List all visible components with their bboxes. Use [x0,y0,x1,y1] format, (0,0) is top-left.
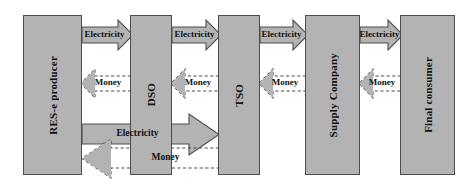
money-arrow-supply-to-tso [259,69,306,98]
electricity-arrow-res-to-dso [82,20,133,50]
actor-box-res-e-producer[interactable]: RES-e producer [23,15,82,175]
electricity-arrow-dso-to-tso [172,20,221,50]
actor-box-tso[interactable]: TSO [218,15,260,175]
electricity-arrow-tso-to-supply [260,20,308,50]
money-arrow-dso-to-res [81,69,131,98]
actor-box-final-consumer[interactable]: Final consumer [400,15,455,175]
actor-label-res-e-producer: RES-e producer [47,56,59,135]
diagram-canvas: RES-e producer DSO TSO Supply Company Fi… [0,0,474,192]
actor-label-dso: DSO [145,83,157,106]
actor-label-tso: TSO [233,84,245,107]
actor-label-supply-company: Supply Company [327,53,339,137]
actor-box-dso[interactable]: DSO [130,15,172,175]
actor-label-final-consumer: Final consumer [422,57,434,133]
money-arrow-consumer-to-supply [359,69,401,98]
money-arrow-tso-to-dso [171,69,219,98]
electricity-arrow-supply-to-consumer [360,20,403,50]
actor-box-supply-company[interactable]: Supply Company [305,15,360,175]
